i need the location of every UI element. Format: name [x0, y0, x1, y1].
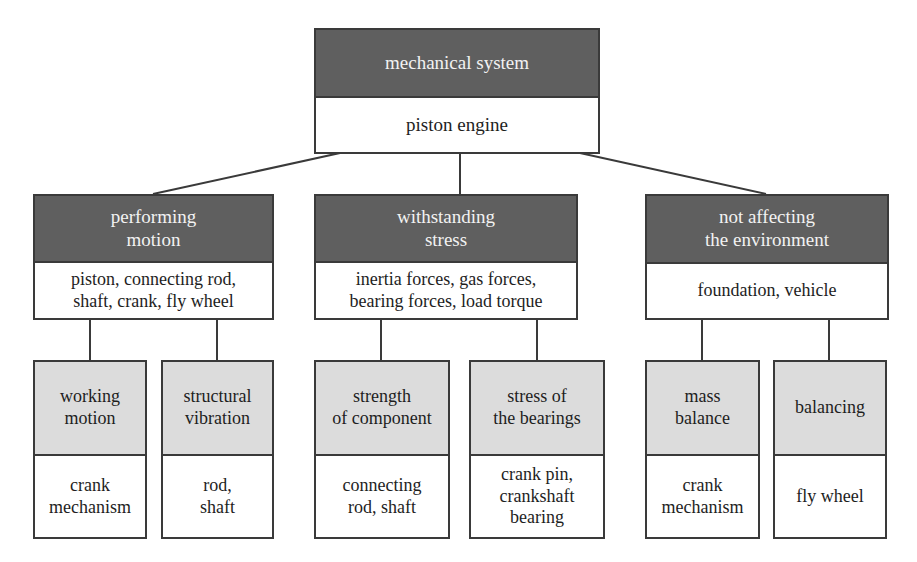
leaf-node: strength of component connecting rod, sh… [314, 360, 450, 539]
category-header: performing motion [35, 196, 272, 263]
root-node: mechanical system piston engine [314, 28, 600, 154]
leaf-body: crank mechanism [647, 456, 758, 537]
category-body: inertia forces, gas forces, bearing forc… [316, 263, 576, 318]
category-body: piston, connecting rod, shaft, crank, fl… [35, 263, 272, 318]
leaf-body: crank pin, crankshaft bearing [471, 456, 603, 537]
leaf-header: stress of the bearings [471, 362, 603, 456]
category-body: foundation, vehicle [647, 264, 887, 318]
leaf-header: structural vibration [163, 362, 272, 456]
category-header: withstanding stress [316, 196, 576, 263]
root-body: piston engine [316, 98, 598, 152]
root-header: mechanical system [316, 30, 598, 98]
leaf-node: mass balance crank mechanism [645, 360, 760, 539]
category-node-environment: not affecting the environment foundation… [645, 194, 889, 320]
leaf-body: rod, shaft [163, 456, 272, 537]
leaf-body: connecting rod, shaft [316, 456, 448, 537]
category-node-motion: performing motion piston, connecting rod… [33, 194, 274, 320]
leaf-node: balancing fly wheel [773, 360, 887, 539]
leaf-header: working motion [35, 362, 145, 456]
leaf-body: fly wheel [775, 456, 885, 537]
category-header: not affecting the environment [647, 196, 887, 264]
leaf-header: mass balance [647, 362, 758, 456]
leaf-body: crank mechanism [35, 456, 145, 537]
leaf-header: balancing [775, 362, 885, 456]
leaf-node: structural vibration rod, shaft [161, 360, 274, 539]
category-node-stress: withstanding stress inertia forces, gas … [314, 194, 578, 320]
leaf-node: working motion crank mechanism [33, 360, 147, 539]
leaf-header: strength of component [316, 362, 448, 456]
leaf-node: stress of the bearings crank pin, cranks… [469, 360, 605, 539]
